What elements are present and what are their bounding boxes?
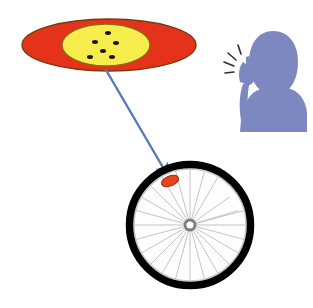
snap-line — [225, 72, 234, 73]
illustration-canvas: Bicycle tyre puncture magnified with per… — [0, 0, 313, 308]
particle-dot — [113, 41, 119, 45]
inner-yellow-ellipse — [62, 24, 150, 66]
particle-dot — [105, 31, 111, 35]
illustration-svg — [0, 0, 313, 308]
hub-inner — [186, 221, 193, 228]
particle-dot — [92, 40, 98, 44]
particle-dot — [87, 55, 93, 59]
bicycle-wheel — [130, 165, 251, 286]
magnified-view-ellipse — [22, 19, 196, 71]
particle-dot — [100, 49, 106, 53]
particle-dot — [109, 55, 115, 59]
